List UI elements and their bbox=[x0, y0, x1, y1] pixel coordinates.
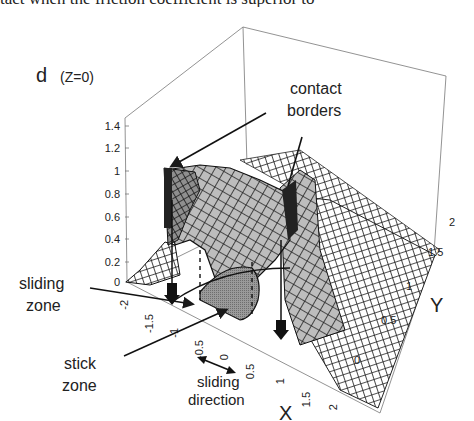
x-tick--1.5: -1.5 bbox=[143, 314, 155, 333]
x-tick-1: 1 bbox=[274, 378, 286, 384]
x-tick-0.5: 0.5 bbox=[244, 364, 256, 379]
annotation-stick-line1: stick bbox=[64, 355, 97, 372]
z-tick-0.2: 0.2 bbox=[105, 256, 120, 268]
x-tick-1.5: 1.5 bbox=[300, 392, 312, 407]
surface bbox=[126, 150, 440, 408]
annotation-sliding-line2: zone bbox=[26, 297, 61, 314]
sliding-direction-line1: sliding bbox=[197, 373, 240, 390]
annotation-contact-line2: borders bbox=[287, 102, 341, 119]
z-tick-1.4: 1.4 bbox=[105, 120, 120, 132]
y-axis-label: Y bbox=[430, 294, 443, 316]
z-tick-1.2: 1.2 bbox=[105, 142, 120, 154]
x-tick--0.5: -0.5 bbox=[193, 340, 205, 359]
x-tick--2: -2 bbox=[118, 300, 130, 310]
x-tick-2: 2 bbox=[327, 404, 339, 410]
z-tick-0.4: 0.4 bbox=[105, 233, 120, 245]
y-tick-1.5: 1.5 bbox=[428, 246, 443, 258]
z-tick-0.8: 0.8 bbox=[105, 188, 120, 200]
z-tick-0: 0 bbox=[114, 276, 120, 288]
stick-zone-arrow bbox=[124, 310, 226, 356]
z-tick-0.6: 0.6 bbox=[105, 211, 120, 223]
sliding-direction-arrow bbox=[197, 356, 236, 374]
surface-plot: 1.4 1.2 1 0.8 0.6 0.4 0.2 0 d (Z=0) bbox=[0, 0, 474, 421]
x-axis-label: X bbox=[279, 402, 292, 421]
annotation-contact-line1: contact bbox=[290, 80, 342, 97]
z-axis-title: d bbox=[36, 64, 47, 86]
y-tick-1: 1 bbox=[406, 280, 412, 292]
y-tick-0: 0 bbox=[354, 354, 360, 366]
annotation-sliding-line1: sliding bbox=[19, 275, 64, 292]
annotation-stick-line2: zone bbox=[62, 377, 97, 394]
z-tick-1: 1 bbox=[114, 165, 120, 177]
sliding-direction-line2: direction bbox=[188, 391, 245, 408]
x-tick-0: 0 bbox=[218, 354, 230, 360]
z-axis-subtitle: (Z=0) bbox=[60, 69, 94, 85]
y-tick-2: 2 bbox=[449, 216, 455, 228]
y-tick-0.5: 0.5 bbox=[381, 314, 396, 326]
